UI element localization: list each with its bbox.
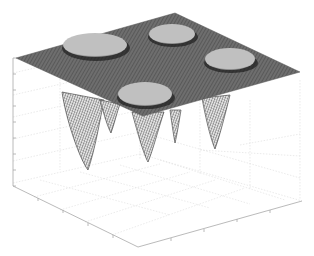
well-right [202,95,230,149]
well-left-shallow [100,100,120,133]
surface-plot [0,0,314,256]
y-axis-ticks [171,210,270,241]
y-axis-line [138,201,302,247]
well-center-right [170,110,181,143]
floor-grid [34,160,285,235]
x-axis-line [13,186,138,247]
well-left-deep [62,92,104,170]
z-axis-ticks [13,58,16,186]
